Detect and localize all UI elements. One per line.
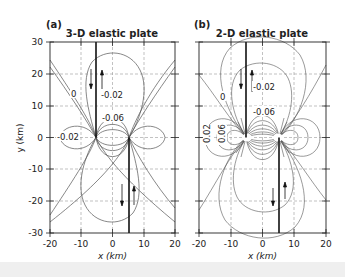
panel-b-label: (b) [194, 19, 210, 30]
svg-text:10: 10 [288, 239, 300, 249]
panel-b-contour-labels: 0 -0.02 -0.06 0.02 0.06 [202, 81, 276, 145]
svg-text:-30: -30 [28, 228, 43, 238]
contour-label: -0.02 [101, 90, 123, 100]
panel-a-ytick-labels: 30 20 10 0 -10 -20 -30 [28, 37, 43, 238]
panel-a-xtick-labels: -20 -10 0 10 20 [43, 239, 181, 249]
panel-a-ylabel: y (km) [15, 123, 25, 152]
bottom-strip [0, 262, 345, 277]
svg-text:-10: -10 [74, 239, 89, 249]
contour-label: 0.06 [217, 124, 227, 143]
svg-text:0: 0 [37, 133, 43, 143]
contour-label: 0 [71, 89, 76, 99]
svg-text:-20: -20 [28, 196, 43, 206]
panel-a-xlabel: x (km) [97, 251, 127, 261]
svg-text:-20: -20 [192, 239, 207, 249]
panel-a-title: 3-D elastic plate [66, 28, 159, 39]
svg-text:20: 20 [32, 69, 44, 79]
arrow-down-icon [272, 201, 275, 206]
svg-text:0: 0 [110, 239, 116, 249]
contour-label: -0.06 [253, 107, 275, 117]
svg-text:0: 0 [260, 239, 266, 249]
svg-text:20: 20 [169, 239, 181, 249]
panel-b-xtick-labels: -20 -10 0 10 20 [192, 239, 332, 249]
svg-text:20: 20 [320, 239, 332, 249]
svg-text:30: 30 [32, 37, 44, 47]
panel-b: (b) 2-D elastic plate [192, 19, 332, 261]
arrow-up-icon [251, 70, 254, 75]
contour-label: -0.06 [102, 113, 124, 123]
contour-label: -0.02 [57, 132, 79, 142]
arrow-down-icon [90, 84, 93, 89]
figure: (a) 3-D elastic plate [0, 0, 345, 277]
panel-a: (a) 3-D elastic plate [15, 19, 181, 261]
contour-label: -0.02 [253, 82, 275, 92]
arrow-up-icon [101, 70, 104, 75]
svg-text:-10: -10 [224, 239, 239, 249]
contour-label: 0 [220, 92, 225, 102]
svg-text:-20: -20 [43, 239, 58, 249]
arrow-down-icon [240, 84, 243, 89]
contour-label: 0.02 [202, 124, 212, 143]
panel-b-title: 2-D elastic plate [216, 28, 309, 39]
svg-text:10: 10 [138, 239, 150, 249]
svg-text:10: 10 [32, 101, 44, 111]
panel-a-label: (a) [46, 19, 62, 30]
arrow-down-icon [121, 201, 124, 206]
panel-a-contour-labels: 0 -0.02 -0.06 -0.02 [56, 88, 125, 142]
arrow-up-icon [284, 182, 287, 187]
svg-text:-10: -10 [28, 164, 43, 174]
panel-b-xlabel: x (km) [247, 251, 277, 261]
